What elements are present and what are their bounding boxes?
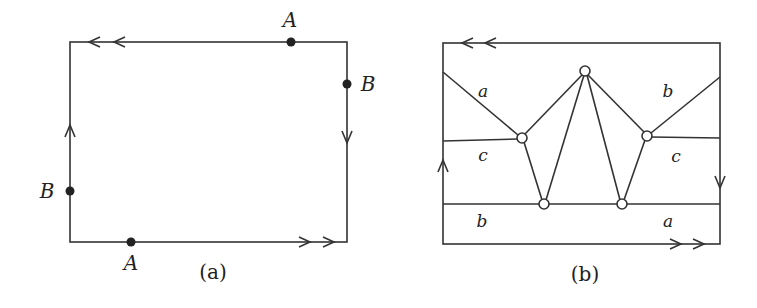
point-a-bottom: [127, 238, 136, 247]
figure-canvas: A B B A (a) a b c: [0, 0, 757, 308]
edge: [525, 75, 582, 134]
vertex-bottom-left: [539, 199, 549, 209]
edge: [624, 140, 645, 200]
label-a-bottom: A: [122, 251, 138, 275]
edge: [443, 139, 518, 141]
vertex-bottom-right: [617, 199, 627, 209]
figure-a-points: [66, 38, 352, 247]
vertex-mid-left: [517, 133, 527, 143]
figure-b-vertices: [517, 66, 652, 209]
edge: [587, 75, 620, 200]
region-label: c: [671, 146, 681, 166]
region-label: a: [478, 81, 488, 101]
figure-a: [65, 37, 352, 247]
label-a-top: A: [281, 8, 297, 32]
caption-a: (a): [199, 260, 227, 284]
edge: [651, 137, 720, 138]
edge: [524, 142, 542, 200]
region-label: b: [477, 211, 488, 231]
edge: [651, 77, 720, 133]
region-label: c: [478, 145, 488, 165]
region-label: b: [663, 81, 674, 101]
point-a-top: [287, 38, 296, 47]
edge: [546, 75, 584, 200]
label-b-right: B: [360, 72, 376, 96]
point-b-right: [343, 80, 352, 89]
point-b-left: [66, 187, 75, 196]
figure-a-rectangle: [70, 42, 347, 242]
region-label: a: [663, 211, 673, 231]
vertex-top: [580, 66, 590, 76]
edge: [588, 75, 644, 132]
caption-b: (b): [571, 262, 599, 286]
label-b-left: B: [39, 179, 55, 203]
vertex-mid-right: [642, 131, 652, 141]
